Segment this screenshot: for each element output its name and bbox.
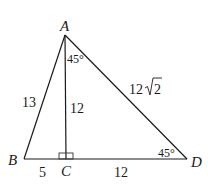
point-label-B: B	[8, 152, 17, 168]
length-label-AB: 13	[22, 95, 36, 110]
angle-label-CAD: 45°	[67, 52, 84, 66]
length-label-AD: 12 2	[129, 78, 162, 97]
length-label-AC: 12	[70, 101, 84, 116]
length-label-AD-radicand: 2	[154, 82, 161, 97]
segment-AC	[65, 35, 66, 159]
length-label-BC: 5	[39, 165, 46, 180]
point-label-C: C	[61, 163, 72, 179]
length-label-AD-coefficient: 12	[129, 82, 143, 97]
length-label-CD: 12	[114, 165, 128, 180]
triangle-diagram: A B C D 13 12 5 12 12 2 45° 45°	[0, 0, 208, 190]
point-label-A: A	[59, 18, 70, 34]
angle-label-ADC: 45°	[158, 146, 175, 160]
point-label-D: D	[190, 154, 202, 170]
